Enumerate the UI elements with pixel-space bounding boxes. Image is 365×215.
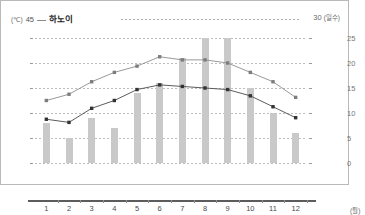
line-marker: [135, 88, 138, 91]
line-marker: [45, 99, 48, 102]
right-axis-tickmark: [309, 63, 312, 64]
line-marker: [67, 121, 70, 124]
right-axis-tick-label: 25: [347, 34, 365, 43]
left-axis-unit: (℃): [11, 16, 23, 23]
right-axis-header: 30 (일수): [313, 12, 340, 22]
right-axis-tickmark: [309, 38, 312, 39]
line-marker: [181, 58, 184, 61]
x-axis-tick-label: 6: [149, 204, 171, 213]
line-marker: [203, 58, 206, 61]
line-series-group: [35, 38, 307, 163]
line-marker: [45, 118, 48, 121]
right-axis-tick-label: 5: [347, 134, 365, 143]
line-marker: [271, 80, 274, 83]
line-marker: [294, 96, 297, 99]
line-marker: [226, 88, 229, 91]
x-axis-tickmark: [307, 200, 308, 203]
left-axis-tickmark: [30, 113, 33, 114]
line-marker: [135, 64, 138, 67]
line-marker: [67, 93, 70, 96]
right-axis-unit: (일수): [324, 14, 340, 21]
chart-title: 하노이: [49, 14, 74, 24]
line-marker: [158, 55, 161, 58]
line-path: [46, 57, 295, 101]
x-axis-tick-label: 5: [126, 204, 148, 213]
x-axis-tick-label: 4: [103, 204, 125, 213]
line-marker: [113, 99, 116, 102]
x-axis-tickmark: [58, 200, 59, 203]
x-axis-tick-label: 11: [262, 204, 284, 213]
right-axis-tickmark: [309, 113, 312, 114]
line-marker: [90, 80, 93, 83]
line-path: [46, 85, 295, 123]
x-axis-tickmark: [148, 200, 149, 203]
x-axis-tick-label: 2: [58, 204, 80, 213]
left-axis-max: 45: [26, 15, 34, 24]
chart-header: (℃)45하노이 30 (일수): [1, 1, 350, 31]
x-axis-tick-label: 9: [217, 204, 239, 213]
line-marker: [203, 86, 206, 89]
x-axis-tickmark: [284, 200, 285, 203]
x-axis-tickmark: [103, 200, 104, 203]
line-marker: [249, 71, 252, 74]
right-axis-tick-label: 10: [347, 109, 365, 118]
left-axis-header: (℃)45하노이: [11, 12, 74, 24]
x-axis-tick-label: 7: [171, 204, 193, 213]
x-axis-tickmark: [239, 200, 240, 203]
right-axis-max: 30: [313, 13, 321, 22]
plot-area: 4032241680 2520151050 123456789101112 (월…: [35, 38, 307, 163]
left-axis-tickmark: [30, 163, 33, 164]
x-axis-tick-label: 3: [81, 204, 103, 213]
header-dash: [37, 20, 46, 21]
line-marker: [271, 105, 274, 108]
x-axis-tick-label: 10: [239, 204, 261, 213]
line-marker: [249, 94, 252, 97]
x-axis-tickmark: [216, 200, 217, 203]
x-axis-unit: (월): [350, 205, 360, 215]
right-axis-tickmark: [309, 163, 312, 164]
x-axis-tickmark: [171, 200, 172, 203]
header-dotted-rule: [121, 19, 299, 20]
x-axis-tick-label: 8: [194, 204, 216, 213]
line-marker: [158, 83, 161, 86]
line-marker: [294, 116, 297, 119]
x-axis-baseline: [28, 200, 316, 202]
x-axis-tick-label: 12: [285, 204, 307, 213]
right-axis-tickmark: [309, 88, 312, 89]
left-axis-tickmark: [30, 38, 33, 39]
x-axis-tickmark: [80, 200, 81, 203]
right-axis-tick-label: 15: [347, 84, 365, 93]
x-axis-tickmark: [126, 200, 127, 203]
right-axis-tick-label: 20: [347, 59, 365, 68]
left-axis-tickmark: [30, 88, 33, 89]
left-axis-tickmark: [30, 63, 33, 64]
right-axis-tickmark: [309, 138, 312, 139]
x-axis-tickmark: [262, 200, 263, 203]
left-axis-tickmark: [30, 138, 33, 139]
line-marker: [226, 61, 229, 64]
x-axis-tickmark: [194, 200, 195, 203]
line-marker: [181, 85, 184, 88]
x-axis-tick-label: 1: [35, 204, 57, 213]
line-marker: [90, 107, 93, 110]
right-axis-tick-label: 0: [347, 159, 365, 168]
line-marker: [113, 71, 116, 74]
gridline: [35, 163, 307, 164]
